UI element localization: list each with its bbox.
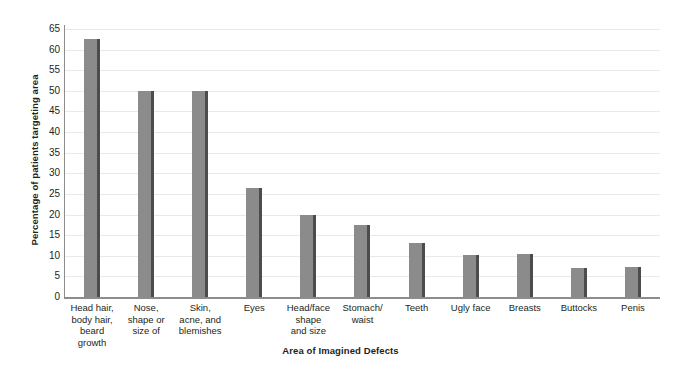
x-axis-category-label: Breasts xyxy=(494,302,556,314)
x-axis-category-label: Penis xyxy=(602,302,664,314)
y-axis-tick-label: 25 xyxy=(36,189,60,199)
x-axis-category-label: Skin,acne, andblemishes xyxy=(169,302,231,337)
y-axis-tick-label: 30 xyxy=(36,168,60,178)
x-axis-category-label: Ugly face xyxy=(440,302,502,314)
y-axis-tick-label: 35 xyxy=(36,148,60,158)
y-axis-tick-label: 60 xyxy=(36,45,60,55)
x-axis-line xyxy=(64,297,660,299)
bar xyxy=(517,254,533,297)
y-axis-tick-labels: 05101520253035404550556065 xyxy=(36,29,60,297)
x-axis-category-label: Head hair,body hair,beardgrowth xyxy=(61,302,123,348)
bar xyxy=(300,215,316,297)
y-axis-tick-label: 40 xyxy=(36,127,60,137)
y-axis-tick-label: 65 xyxy=(36,24,60,34)
bar xyxy=(463,255,479,297)
bar xyxy=(246,188,262,297)
x-axis-category-label: Eyes xyxy=(223,302,285,314)
bar xyxy=(192,91,208,297)
bar xyxy=(625,267,641,297)
bar xyxy=(571,268,587,297)
bar xyxy=(138,91,154,297)
y-axis-tick-label: 10 xyxy=(36,251,60,261)
x-axis-category-label: Nose,shape orsize of xyxy=(115,302,177,337)
x-axis-title: Area of Imagined Defects xyxy=(0,345,681,356)
y-axis-tick-label: 45 xyxy=(36,106,60,116)
bar xyxy=(409,243,425,297)
y-axis-tick-label: 15 xyxy=(36,230,60,240)
bar xyxy=(354,225,370,297)
x-axis-category-label: Stomach/waist xyxy=(332,302,394,325)
x-axis-category-label: Buttocks xyxy=(548,302,610,314)
y-axis-tick-label: 50 xyxy=(36,86,60,96)
bars-layer xyxy=(65,29,660,297)
y-axis-tick-label: 5 xyxy=(36,271,60,281)
bar-chart: Percentage of patients targeting area 05… xyxy=(0,0,681,373)
y-axis-tick-label: 20 xyxy=(36,210,60,220)
y-axis-tick-label: 0 xyxy=(36,292,60,302)
bar xyxy=(84,39,100,297)
x-axis-category-label: Head/faceshapeand size xyxy=(277,302,339,337)
x-axis-category-label: Teeth xyxy=(386,302,448,314)
y-axis-tick-label: 55 xyxy=(36,65,60,75)
